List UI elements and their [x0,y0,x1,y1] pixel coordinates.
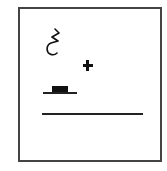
squiggle-hook-icon [44,28,64,58]
long-base-line [42,113,143,115]
short-base-line [43,92,77,94]
symbol-card-frame [18,7,162,162]
